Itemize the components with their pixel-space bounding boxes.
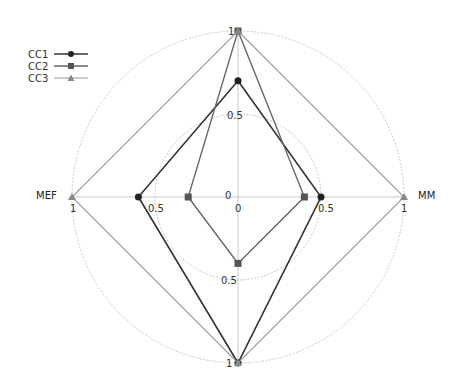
tick-label: 1 — [401, 203, 407, 214]
tick-label: 0.5 — [227, 110, 243, 121]
series-cc2 — [188, 31, 304, 263]
legend-item-cc2: CC2 — [28, 60, 88, 72]
square-marker-icon — [54, 61, 88, 71]
tick-label: 0.5 — [148, 203, 164, 214]
data-point — [185, 194, 192, 201]
legend-label: CC1 — [28, 49, 54, 60]
series-cc1 — [138, 81, 321, 363]
triangle-marker-icon — [54, 73, 88, 83]
tick-label: 0 — [235, 203, 241, 214]
legend-label: CC3 — [28, 73, 54, 84]
axis-label-mm: MM — [418, 190, 435, 201]
legend-label: CC2 — [28, 61, 54, 72]
legend: CC1 CC2 CC3 — [28, 48, 88, 84]
data-point — [135, 194, 142, 201]
data-point — [318, 194, 325, 201]
axis-label-mef: MEF — [36, 190, 57, 201]
tick-label: 0.5 — [318, 203, 334, 214]
tick-label: 1 — [70, 203, 76, 214]
data-point — [235, 260, 242, 267]
tick-label: 1 — [226, 358, 232, 369]
legend-item-cc3: CC3 — [28, 72, 88, 84]
tick-label: 0.5 — [221, 275, 237, 286]
data-point — [301, 194, 308, 201]
circle-marker-icon — [54, 49, 88, 59]
legend-item-cc1: CC1 — [28, 48, 88, 60]
tick-label: 0 — [225, 190, 231, 201]
data-point — [235, 77, 242, 84]
